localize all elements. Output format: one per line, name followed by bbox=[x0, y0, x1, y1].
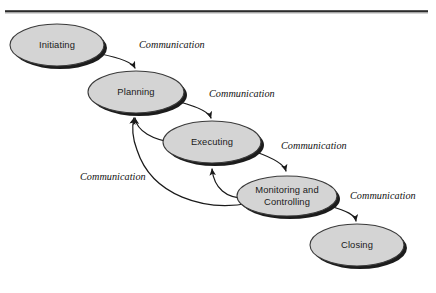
node-executing[interactable]: Executing bbox=[163, 121, 264, 166]
top-horizontal-rule bbox=[5, 10, 428, 13]
node-monitoring-and-controlling[interactable]: Monitoring and Controlling bbox=[237, 176, 340, 219]
node-initiating[interactable]: Initiating bbox=[10, 24, 107, 69]
edge-label-executing-to-monitoring: Communication bbox=[281, 140, 347, 151]
node-closing[interactable]: Closing bbox=[310, 224, 407, 269]
process-flow-diagram: Initiating Planning Executing Monitoring… bbox=[0, 0, 436, 293]
edge-label-initiating-to-planning: Communication bbox=[139, 39, 205, 50]
edge-label-feedback-communication: Communication bbox=[80, 171, 146, 182]
node-monitoring-and-controlling-label-line2: Controlling bbox=[264, 196, 310, 207]
edge-label-monitoring-to-closing: Communication bbox=[350, 190, 416, 201]
node-initiating-label: Initiating bbox=[39, 39, 75, 50]
node-planning-label: Planning bbox=[117, 86, 154, 97]
node-executing-label: Executing bbox=[191, 136, 233, 147]
node-monitoring-and-controlling-label-line1: Monitoring and bbox=[255, 184, 318, 195]
edge-label-planning-to-executing: Communication bbox=[209, 88, 275, 99]
edge-initiating-to-planning bbox=[101, 54, 135, 68]
node-closing-label: Closing bbox=[341, 239, 373, 250]
node-planning[interactable]: Planning bbox=[88, 71, 187, 116]
figure-root: Initiating Planning Executing Monitoring… bbox=[0, 0, 436, 293]
edge-planning-to-executing bbox=[180, 102, 211, 118]
edge-executing-to-monitoring bbox=[256, 152, 286, 171]
